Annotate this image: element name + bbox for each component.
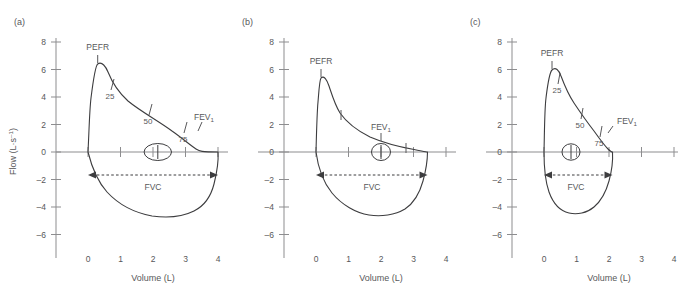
panel-c-restrictive: (c) 8 6 4 2 0 –2 –4 –6 — [456, 0, 680, 288]
fev1-label-c: FEV1 — [617, 116, 638, 127]
y-tick-label: 4 — [41, 92, 46, 102]
y-tick-label: –4 — [37, 202, 47, 212]
y-tick-labels-a: 8 6 4 2 0 –2 –4 –6 — [37, 37, 47, 240]
fev1-label-sub: 1 — [388, 126, 392, 133]
y-tick-label: 2 — [41, 120, 46, 130]
y-tick-labels-b: 8 6 4 2 0 –2 –4 –6 — [265, 37, 275, 240]
x-tick-label: 0 — [542, 254, 547, 264]
x-tick-labels-a: 0 1 2 3 4 — [86, 254, 221, 264]
flow-volume-loop-b — [316, 77, 428, 216]
fvc-arrow-c — [544, 172, 613, 179]
x-tick-label: 2 — [379, 254, 384, 264]
y-tick-label: –2 — [265, 175, 275, 185]
pefr-label-c: PEFR — [541, 48, 564, 58]
panel-a-normal: (a) 8 6 4 2 0 –2 — [0, 0, 230, 288]
y-tick-label: 2 — [269, 120, 274, 130]
fvc-arrow-a — [88, 172, 218, 179]
y-tick-label: –6 — [37, 230, 47, 240]
x-tick-label: 1 — [346, 254, 351, 264]
marker-50-label-a: 50 — [144, 117, 153, 126]
y-tick-label: 0 — [269, 147, 274, 157]
x-tick-label: 0 — [86, 254, 91, 264]
marker-50-label-c: 50 — [576, 121, 585, 130]
x-tick-labels-b: 0 1 2 3 4 — [314, 254, 449, 264]
fev1-label-sub: 1 — [211, 116, 215, 123]
x-tick-label: 0 — [314, 254, 319, 264]
fev1-label-main: FEV — [617, 116, 634, 126]
y-tick-label: 0 — [497, 147, 502, 157]
x-axis-title-b: Volume (L) — [359, 273, 403, 283]
y-tick-label: 6 — [269, 65, 274, 75]
marker-75-tick-a — [184, 122, 187, 133]
x-tick-label: 3 — [411, 254, 416, 264]
flow-volume-loop-a — [88, 63, 218, 217]
x-tick-label: 1 — [574, 254, 579, 264]
marker-50-tick-a — [149, 104, 152, 115]
fev1-label-main: FEV — [371, 122, 388, 132]
flow-volume-loop-figure: (a) 8 6 4 2 0 –2 — [0, 0, 680, 288]
fev1-label-main: FEV — [194, 112, 211, 122]
panel-b-obstructive: (b) 8 6 4 2 0 –2 –4 –6 — [228, 0, 458, 288]
y-tick-label: –6 — [265, 230, 275, 240]
y-tick-label: –2 — [37, 175, 47, 185]
y-tick-label: 8 — [269, 37, 274, 47]
y-tick-label: 4 — [497, 92, 502, 102]
y-axis-title-a: Flow (L·s–1) — [7, 128, 18, 175]
y-tick-label: 4 — [269, 92, 274, 102]
marker-25-tick-c — [558, 73, 560, 84]
fvc-label-b: FVC — [364, 182, 381, 192]
y-axis-title-close: ) — [8, 128, 18, 131]
fvc-arrow-b — [316, 172, 428, 179]
marker-75-label-a: 75 — [179, 135, 188, 144]
x-tick-label: 4 — [672, 254, 677, 264]
y-tick-label: –6 — [493, 230, 503, 240]
x-tick-label: 3 — [183, 254, 188, 264]
x-tick-label: 2 — [151, 254, 156, 264]
y-tick-label: 0 — [41, 147, 46, 157]
x-tick-label: 4 — [444, 254, 449, 264]
y-tick-label: 8 — [41, 37, 46, 47]
marker-75-label-c: 75 — [595, 139, 604, 148]
fev1-leader-c — [608, 126, 613, 133]
y-tick-label: 6 — [41, 65, 46, 75]
fev1-leader-a — [198, 122, 202, 131]
panel-b-label: (b) — [242, 17, 253, 27]
fev1-label-sub: 1 — [634, 120, 638, 127]
y-tick-label: –4 — [493, 202, 503, 212]
x-tick-label: 3 — [639, 254, 644, 264]
panel-a-label: (a) — [14, 17, 25, 27]
fev1-label-b: FEV1 — [371, 122, 392, 133]
panel-c-plot: (c) 8 6 4 2 0 –2 –4 –6 — [456, 0, 680, 288]
panel-c-label: (c) — [470, 17, 481, 27]
x-tick-label: 1 — [118, 254, 123, 264]
fev1-label-a: FEV1 — [194, 112, 215, 123]
x-tick-label: 2 — [607, 254, 612, 264]
y-tick-label: 2 — [497, 120, 502, 130]
panel-b-plot: (b) 8 6 4 2 0 –2 –4 –6 — [228, 0, 458, 288]
y-tick-label: –2 — [493, 175, 503, 185]
y-axis-title-main: Flow (L — [8, 145, 18, 175]
x-axis-title-a: Volume (L) — [131, 273, 175, 283]
marker-25-label-a: 25 — [106, 92, 115, 101]
y-tick-label: 6 — [497, 65, 502, 75]
marker-25-label-c: 25 — [553, 86, 562, 95]
x-tick-labels-c: 0 1 2 3 4 — [542, 254, 677, 264]
fvc-label-c: FVC — [568, 182, 585, 192]
fvc-label-a: FVC — [145, 182, 162, 192]
y-tick-label: –4 — [265, 202, 275, 212]
x-tick-label: 4 — [216, 254, 221, 264]
marker-75-tick-c — [600, 126, 602, 137]
y-tick-label: 8 — [497, 37, 502, 47]
panel-a-plot: (a) 8 6 4 2 0 –2 — [0, 0, 230, 288]
pefr-label-a: PEFR — [86, 42, 109, 52]
y-tick-labels-c: 8 6 4 2 0 –2 –4 –6 — [493, 37, 503, 240]
x-axis-title-c: Volume (L) — [587, 273, 631, 283]
pefr-label-b: PEFR — [310, 56, 333, 66]
